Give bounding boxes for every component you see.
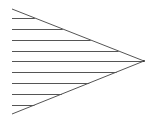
apex-point bbox=[143, 60, 145, 62]
bottom-edge bbox=[12, 61, 144, 114]
top-edge bbox=[12, 9, 144, 61]
hatched-triangle-diagram bbox=[0, 0, 154, 125]
hatch-lines bbox=[12, 19, 144, 106]
